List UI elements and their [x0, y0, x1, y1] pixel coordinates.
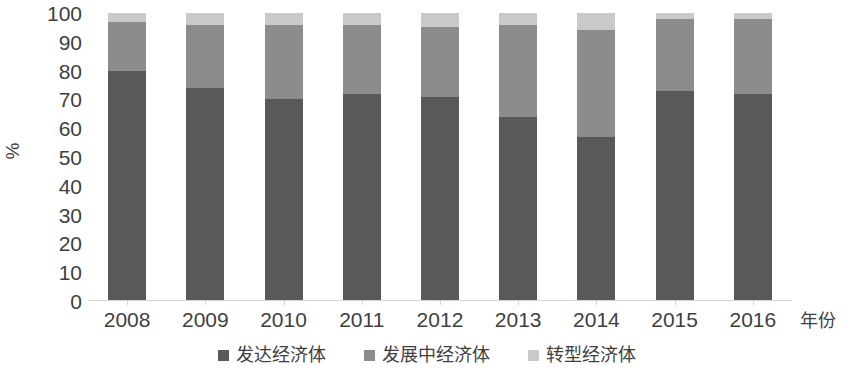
stacked-bar[interactable] [343, 13, 381, 301]
square-marker-icon [364, 350, 375, 361]
bar-group [88, 13, 792, 301]
bar-segment[interactable] [343, 25, 381, 94]
x-axis-line [88, 300, 792, 301]
x-axis-tick-label: 2009 [166, 307, 244, 335]
bar-segment[interactable] [265, 13, 303, 25]
bar-segment[interactable] [656, 91, 694, 301]
stacked-bar[interactable] [108, 13, 146, 301]
y-axis-tick-label: 60 [26, 118, 82, 139]
x-axis-tick-label: 2016 [714, 307, 792, 335]
bar-segment[interactable] [421, 13, 459, 27]
bar-segment[interactable] [734, 94, 772, 301]
stacked-bar[interactable] [734, 13, 772, 301]
y-axis-tick-label: 90 [26, 32, 82, 53]
stacked-bar[interactable] [421, 13, 459, 301]
bar-slot [714, 13, 792, 301]
x-axis-title: 年份 [800, 309, 836, 333]
bar-segment[interactable] [577, 30, 615, 137]
x-axis-tick-label: 2012 [401, 307, 479, 335]
bar-segment[interactable] [343, 94, 381, 301]
bar-segment[interactable] [265, 25, 303, 100]
chart-legend: 发达经济体发展中经济体转型经济体 [0, 344, 854, 366]
x-axis-tickmark [596, 301, 597, 305]
square-marker-icon [528, 350, 539, 361]
x-axis-tick-label: 2013 [479, 307, 557, 335]
x-axis-tickmark [440, 301, 441, 305]
bar-slot [401, 13, 479, 301]
x-axis-tickmark [284, 301, 285, 305]
bar-slot [323, 13, 401, 301]
square-marker-icon [218, 350, 229, 361]
x-axis-tickmark [675, 301, 676, 305]
legend-item-label: 发展中经济体 [382, 344, 490, 366]
bar-segment[interactable] [421, 97, 459, 301]
bar-slot [88, 13, 166, 301]
y-axis-tick-label: 40 [26, 176, 82, 197]
x-axis-tickmark [753, 301, 754, 305]
bar-segment[interactable] [577, 137, 615, 301]
y-axis-tick-labels: 1009080706050403020100 [26, 0, 82, 370]
stacked-bar[interactable] [577, 13, 615, 301]
bar-segment[interactable] [421, 27, 459, 96]
bar-segment[interactable] [108, 71, 146, 301]
x-axis-tick-label: 2010 [244, 307, 322, 335]
y-axis-tick-label: 20 [26, 233, 82, 254]
bar-slot [636, 13, 714, 301]
legend-item[interactable]: 发展中经济体 [364, 344, 490, 366]
legend-item[interactable]: 转型经济体 [528, 344, 636, 366]
bar-segment[interactable] [656, 19, 694, 91]
y-axis-tick-label: 80 [26, 61, 82, 82]
x-axis-tick-labels: 200820092010201120122013201420152016 [88, 307, 792, 335]
x-axis-tick-label: 2008 [88, 307, 166, 335]
legend-item-label: 发达经济体 [236, 344, 326, 366]
bar-segment[interactable] [265, 99, 303, 301]
y-axis-tick-label: 10 [26, 262, 82, 283]
y-axis-tick-label: 0 [26, 291, 82, 312]
x-axis-tickmark [362, 301, 363, 305]
y-axis-tick-label: 30 [26, 205, 82, 226]
bar-slot [166, 13, 244, 301]
bar-segment[interactable] [343, 13, 381, 25]
bar-segment[interactable] [186, 25, 224, 88]
y-axis-tick-label: 50 [26, 147, 82, 168]
plot-area [88, 13, 792, 301]
stacked-bar-chart: % 1009080706050403020100 200820092010201… [0, 0, 854, 370]
x-axis-tick-label: 2014 [557, 307, 635, 335]
bar-segment[interactable] [108, 13, 146, 22]
bar-segment[interactable] [186, 88, 224, 301]
bar-segment[interactable] [734, 19, 772, 94]
bar-segment[interactable] [108, 22, 146, 71]
legend-item-label: 转型经济体 [546, 344, 636, 366]
y-axis-tick-label: 100 [26, 3, 82, 24]
y-axis-title: % [2, 140, 24, 162]
x-axis-tick-label: 2011 [323, 307, 401, 335]
bar-slot [557, 13, 635, 301]
y-axis-tick-label: 70 [26, 89, 82, 110]
bar-segment[interactable] [186, 13, 224, 25]
bar-slot [244, 13, 322, 301]
bar-segment[interactable] [499, 25, 537, 117]
x-axis-tick-label: 2015 [636, 307, 714, 335]
x-axis-tickmark [127, 301, 128, 305]
stacked-bar[interactable] [186, 13, 224, 301]
bar-slot [479, 13, 557, 301]
x-axis-tickmark [205, 301, 206, 305]
stacked-bar[interactable] [499, 13, 537, 301]
bar-segment[interactable] [499, 117, 537, 301]
stacked-bar[interactable] [265, 13, 303, 301]
x-axis-tickmark [518, 301, 519, 305]
bar-segment[interactable] [499, 13, 537, 25]
stacked-bar[interactable] [656, 13, 694, 301]
legend-item[interactable]: 发达经济体 [218, 344, 326, 366]
bar-segment[interactable] [577, 13, 615, 30]
